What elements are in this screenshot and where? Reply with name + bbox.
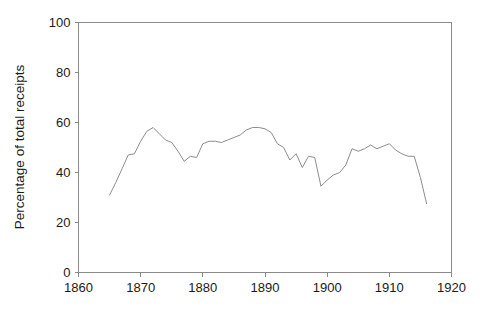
x-tick-label: 1910 — [375, 280, 404, 295]
line-chart: 020406080100 186018701880189019001910192… — [0, 0, 490, 315]
x-tick-label: 1900 — [313, 280, 342, 295]
y-tick-label: 60 — [56, 115, 70, 130]
x-tick-label: 1870 — [126, 280, 155, 295]
x-tick-label: 1890 — [251, 280, 280, 295]
y-tick-label: 0 — [63, 265, 70, 280]
y-tick-group: 020406080100 — [49, 15, 79, 280]
y-tick-label: 100 — [49, 15, 71, 30]
y-tick-label: 80 — [56, 65, 70, 80]
x-tick-group: 1860187018801890190019101920 — [64, 273, 466, 295]
y-tick-label: 20 — [56, 215, 70, 230]
plot-axes — [78, 22, 452, 273]
y-axis-title: Percentage of total receipts — [12, 65, 27, 230]
y-tick-label: 40 — [56, 165, 70, 180]
x-tick-label: 1920 — [437, 280, 466, 295]
x-tick-label: 1860 — [64, 280, 93, 295]
chart-figure: 020406080100 186018701880189019001910192… — [0, 0, 490, 315]
x-tick-label: 1880 — [188, 280, 217, 295]
data-series-line — [110, 128, 427, 204]
